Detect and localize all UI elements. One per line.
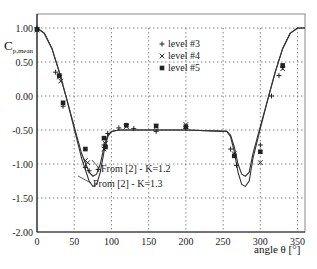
marker-square	[184, 124, 189, 129]
x-axis-label: angle θ [°]	[254, 243, 300, 255]
marker-square	[160, 66, 165, 71]
legend-item-label: level #4	[168, 50, 200, 61]
x-tick-label: 250	[216, 236, 231, 247]
marker-square	[232, 154, 237, 159]
data-points	[35, 26, 286, 174]
y-tick-label: -1.50	[12, 193, 33, 204]
x-tick-label: 200	[178, 236, 193, 247]
marker-square	[102, 136, 107, 141]
legend-item-label: level #5	[168, 62, 200, 73]
y-tick-label: -0.50	[12, 125, 33, 136]
y-tick-label: -1.00	[12, 159, 33, 170]
y-tick-label: 0.00	[16, 91, 34, 102]
marker-square	[154, 124, 159, 129]
y-tick-label: 0.50	[16, 57, 34, 68]
marker-square	[83, 147, 88, 152]
marker-square	[61, 101, 66, 106]
x-tick-label: 0	[35, 236, 40, 247]
marker-plus	[276, 73, 281, 78]
marker-plus	[96, 167, 101, 172]
marker-square	[258, 149, 263, 154]
legend: level #3level #4level #5	[160, 38, 200, 73]
chart-figure: 1.000.500.00-0.50-1.00-1.50-2.00 0501001…	[0, 0, 317, 269]
x-tick-label: 150	[141, 236, 156, 247]
marker-plus	[258, 142, 263, 147]
curve-annotation: From [2] - K=1.3	[93, 178, 163, 189]
x-tick-label: 50	[69, 236, 79, 247]
marker-square	[35, 27, 40, 32]
y-tick-label: 1.00	[16, 23, 34, 34]
marker-cross	[85, 160, 90, 165]
x-tick-label: 100	[104, 236, 119, 247]
marker-cross	[160, 54, 165, 59]
legend-item-label: level #3	[168, 38, 200, 49]
marker-square	[124, 123, 129, 128]
marker-square	[103, 145, 108, 150]
curve-annotation: From [2] - K=1.2	[101, 163, 171, 174]
marker-plus	[228, 147, 233, 152]
marker-square	[280, 63, 285, 68]
y-tick-label: -2.00	[12, 227, 33, 238]
marker-square	[57, 73, 62, 78]
marker-plus	[160, 42, 165, 47]
y-axis-label: Cp,mean	[4, 38, 34, 55]
